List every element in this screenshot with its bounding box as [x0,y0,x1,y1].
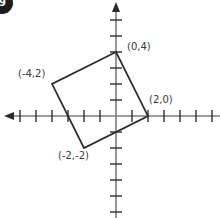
vertex-label-minus2-minus2: (-2,-2) [58,150,89,161]
plotted-square [52,52,148,148]
vertex-label-minus4-2: (-4,2) [18,68,45,79]
y-axis-arrow-up [112,2,120,12]
corner-badge-number: 9 [0,0,9,10]
coordinate-plane-figure: (0,4) (-4,2) (2,0) (-2,-2) 9 [0,0,220,218]
vertex-label-0-4: (0,4) [127,41,151,52]
x-axis-arrow-left [4,112,14,120]
vertex-label-2-0: (2,0) [149,94,173,105]
coordinate-plane-svg [0,0,220,218]
